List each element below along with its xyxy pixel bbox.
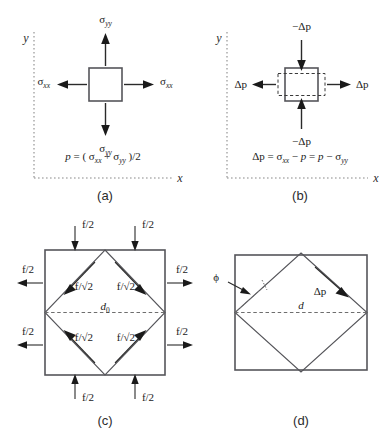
panel-c-force-label-top-left: f/2: [82, 218, 94, 230]
panel-b: y x −Δp −Δp Δp Δp Δp =: [215, 20, 379, 203]
panel-c-caption: (c): [97, 413, 112, 428]
panel-a-label-sigma-yy-top: σyy: [99, 13, 112, 28]
panel-c: d0 f/√2 f/√2 f/√2 f/√2 f/2: [17, 218, 193, 428]
panel-b-arrow-delta-p-left: [252, 80, 276, 89]
panel-c-force-left-lower: [17, 341, 43, 348]
panel-a-stress-element: [89, 68, 122, 101]
panel-d-angle-leader: [228, 282, 251, 295]
panel-c-force-label-bottom-left: f/2: [82, 391, 94, 403]
panel-d-diagonal-label: d: [298, 299, 304, 311]
panel-b-label-neg-delta-p-bottom: −Δp: [292, 135, 311, 147]
panel-b-label-delta-p-left: Δp: [234, 78, 247, 90]
panel-b-label-neg-delta-p-top: −Δp: [292, 20, 311, 32]
panel-a-equation: p = ( σxx + σyy )/2: [64, 150, 141, 165]
panel-a-label-sigma-xx-left: σxx: [37, 75, 50, 90]
panel-a-arrow-sigma-yy-bottom: [101, 103, 110, 136]
panel-c-force-top-left: [71, 226, 78, 251]
panel-b-caption: (b): [292, 188, 308, 203]
panel-c-force-label-left-upper: f/2: [22, 263, 34, 275]
panel-c-force-top-right: [131, 226, 138, 251]
panel-c-edge-force-label-top-right: f/√2: [117, 280, 135, 292]
panel-b-label-delta-p-right: Δp: [356, 78, 369, 90]
panel-b-arrow-delta-p-right: [327, 80, 351, 89]
panel-c-edge-force-label-top-left: f/√2: [75, 280, 93, 292]
panel-c-force-label-left-lower: f/2: [22, 325, 34, 337]
panel-b-x-axis-label: x: [372, 171, 379, 185]
panel-c-force-bottom-right: [131, 374, 138, 399]
panel-c-edge-force-label-bottom-right: f/√2: [117, 331, 135, 343]
panel-c-force-bottom-left: [71, 374, 78, 399]
panel-b-arrow-neg-delta-p-top: [297, 40, 306, 71]
panel-a-caption: (a): [97, 188, 113, 203]
panel-b-stress-element: [285, 68, 318, 101]
panel-c-edge-force-label-bottom-left: f/√2: [75, 331, 93, 343]
panel-c-force-label-right-lower: f/2: [176, 325, 188, 337]
panel-a-arrow-sigma-xx-right: [124, 80, 154, 89]
panel-d-stress-label: Δp: [314, 285, 327, 297]
panel-a-arrow-sigma-yy-top: [101, 33, 110, 66]
panel-a-label-sigma-xx-right: σxx: [160, 75, 173, 90]
panel-a-arrow-sigma-xx-left: [57, 80, 87, 89]
panel-d: d ϕ Δp (d): [213, 253, 367, 428]
figure-container: y x σyy σyy σxx: [0, 0, 392, 442]
panel-b-equation: Δp = σxx − p = p − σyy: [252, 150, 348, 165]
panel-c-force-label-top-right: f/2: [142, 218, 154, 230]
panel-c-force-label-right-upper: f/2: [176, 263, 188, 275]
panel-d-angle-label: ϕ: [213, 271, 219, 283]
panel-b-arrow-neg-delta-p-bottom: [297, 98, 306, 129]
panel-c-force-right-upper: [167, 279, 193, 286]
panel-a: y x σyy σyy σxx: [22, 13, 183, 203]
panel-b-y-axis-label: y: [215, 31, 222, 45]
panel-c-force-label-bottom-right: f/2: [142, 391, 154, 403]
panel-c-force-left-upper: [17, 279, 43, 286]
panel-a-y-axis-label: y: [22, 31, 29, 45]
panel-d-caption: (d): [293, 413, 309, 428]
panel-c-force-right-lower: [167, 341, 193, 348]
panel-a-x-axis-label: x: [176, 171, 183, 185]
